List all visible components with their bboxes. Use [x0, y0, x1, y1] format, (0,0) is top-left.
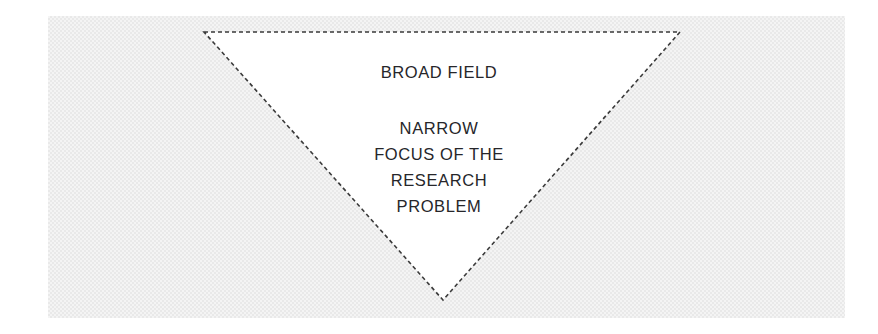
broad-field-label: BROAD FIELD	[0, 64, 878, 81]
narrow-focus-line-3: RESEARCH	[0, 172, 878, 189]
funnel-text-group: BROAD FIELD NARROW FOCUS OF THE RESEARCH…	[0, 0, 878, 334]
research-funnel-figure: BROAD FIELD NARROW FOCUS OF THE RESEARCH…	[0, 0, 878, 334]
narrow-focus-line-4: PROBLEM	[0, 198, 878, 215]
narrow-focus-line-2: FOCUS OF THE	[0, 146, 878, 163]
narrow-focus-line-1: NARROW	[0, 120, 878, 137]
